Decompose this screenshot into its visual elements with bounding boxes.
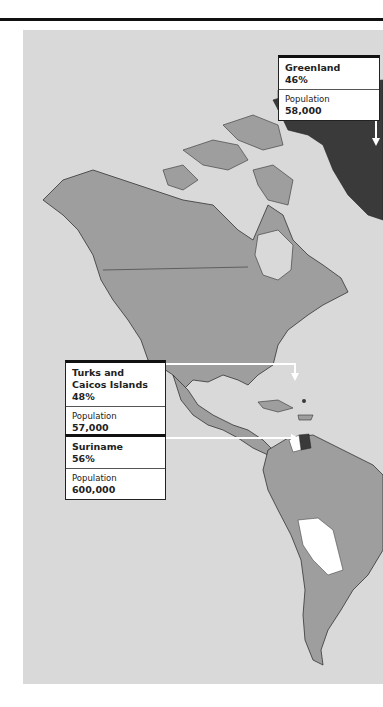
caribbean-islands [258, 400, 313, 420]
top-rule [0, 18, 383, 21]
callout-body: Population 600,000 [66, 469, 165, 499]
americas-map [23, 30, 383, 684]
map-panel [23, 30, 383, 684]
callout-title: Greenland 46% [279, 58, 379, 90]
turks-arrow [291, 373, 299, 381]
callout-turks-and-caicos: Turks and Caicos Islands 48% Population … [65, 360, 166, 438]
callout-greenland: Greenland 46% Population 58,000 [278, 55, 380, 121]
north-america-landmass [43, 170, 348, 390]
callout-body: Population 57,000 [66, 407, 165, 437]
callout-body: Population 58,000 [279, 90, 379, 120]
callout-title: Suriname 56% [66, 437, 165, 469]
central-america [173, 375, 273, 455]
turks-and-caicos [302, 399, 306, 403]
callout-suriname: Suriname 56% Population 600,000 [65, 434, 166, 500]
callout-title: Turks and Caicos Islands 48% [66, 363, 165, 407]
